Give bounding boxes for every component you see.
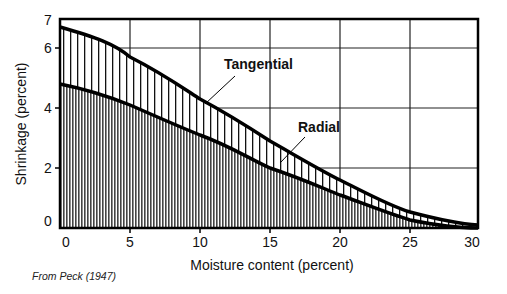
x-tick-0: 0 [62,234,70,250]
source-citation: From Peck (1947) [32,270,116,282]
tangential-leader [205,76,235,104]
x-tick-10: 10 [192,234,208,250]
y-tick-2: 2 [44,160,52,176]
tangential-label: Tangential [224,56,293,72]
y-axis-ticks: 7 6 4 2 0 [44,12,52,229]
x-axis-ticks: 0 5 10 15 20 25 30 [62,234,480,250]
y-tick-6: 6 [44,40,52,56]
radial-label: Radial [298,119,340,135]
shrinkage-chart: Tangential Radial 7 6 4 2 0 0 5 10 15 20… [0,0,507,294]
x-axis-label: Moisture content (percent) [190,257,353,273]
x-tick-20: 20 [332,234,348,250]
x-tick-5: 5 [126,234,134,250]
y-axis-label: Shrinkage (percent) [13,63,29,186]
x-tick-30: 30 [464,234,480,250]
x-tick-25: 25 [402,234,418,250]
x-tick-15: 15 [262,234,278,250]
y-tick-4: 4 [44,100,52,116]
y-tick-0: 0 [44,213,52,229]
y-tick-7: 7 [44,12,52,28]
